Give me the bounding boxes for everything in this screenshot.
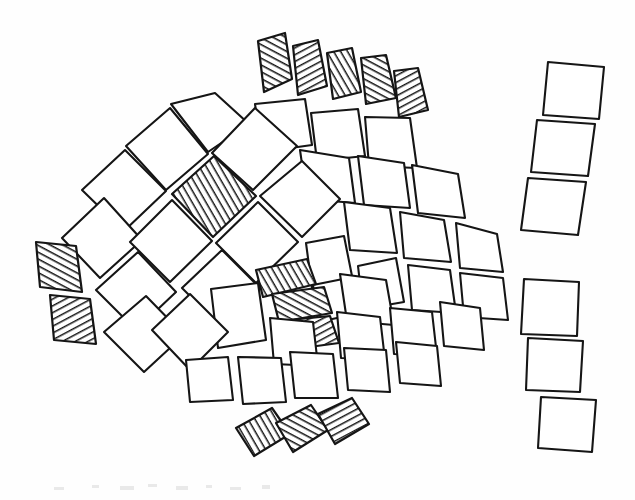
- scale-tile: [238, 357, 286, 404]
- scale-tile: [186, 357, 233, 402]
- scale-tile: [50, 295, 96, 344]
- scanner-artifact: [262, 485, 270, 489]
- scale-tile: [531, 120, 595, 176]
- scale-tile: [521, 178, 586, 235]
- scanner-artifact: [92, 485, 99, 488]
- scale-tile: [344, 202, 397, 253]
- scale-tile: [440, 302, 484, 350]
- scanner-artifact: [206, 485, 212, 488]
- scanner-artifact: [54, 487, 64, 490]
- scanner-artifact: [176, 486, 188, 490]
- scanner-artifact: [120, 486, 134, 490]
- fish-line-drawing: [0, 0, 635, 500]
- drawing-canvas: [0, 0, 635, 500]
- scale-tile: [358, 156, 410, 208]
- scale-tile: [538, 397, 596, 452]
- scanner-artifact: [148, 484, 157, 487]
- scale-tile: [396, 342, 441, 386]
- scale-tile: [526, 338, 583, 392]
- scale-tile: [36, 242, 82, 292]
- scale-tile: [400, 212, 451, 262]
- scale-tile: [543, 62, 604, 119]
- scale-tile: [412, 165, 465, 218]
- scale-tile: [344, 348, 390, 392]
- scanner-artifact: [230, 487, 241, 490]
- scale-tile: [521, 279, 579, 336]
- scale-tile: [290, 352, 338, 398]
